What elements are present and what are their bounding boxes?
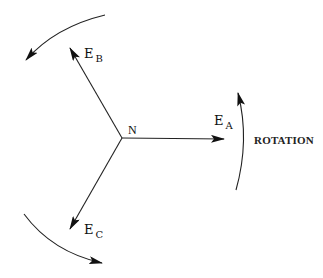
- phasor-a-arrow: [122, 138, 224, 139]
- phasor-c: EC: [70, 138, 122, 240]
- phasor-b: EB: [70, 46, 122, 138]
- rotation-arc-right: [236, 93, 244, 190]
- rotation-label: ROTATION: [254, 134, 314, 146]
- phasor-a: EA: [122, 113, 234, 139]
- phasor-b-label: EB: [84, 46, 103, 64]
- phasor-diagram: EA EB EC N ROTATION: [0, 0, 323, 278]
- phasor-c-label: EC: [84, 222, 104, 240]
- phasor-c-arrow: [70, 138, 122, 229]
- phasor-a-label: EA: [214, 113, 234, 131]
- neutral-label: N: [128, 123, 137, 137]
